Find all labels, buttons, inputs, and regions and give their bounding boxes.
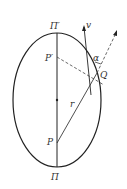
dashed-arrowhead-icon xyxy=(113,30,117,36)
radius-line xyxy=(57,73,97,143)
label-radius: r xyxy=(70,99,75,109)
label-q: Q xyxy=(100,70,108,80)
orbit-diagram: Π′ Π P′ P Q v α r xyxy=(0,0,127,189)
dashed-extension xyxy=(97,33,116,73)
label-periapsis: Π xyxy=(50,172,59,182)
label-velocity: v xyxy=(86,20,91,30)
center-dot xyxy=(56,99,58,101)
velocity-vector xyxy=(84,27,91,95)
label-apoapsis: Π′ xyxy=(49,21,60,31)
label-p: P xyxy=(46,137,54,147)
label-p-prime: P′ xyxy=(44,53,53,63)
label-angle: α xyxy=(93,53,99,63)
